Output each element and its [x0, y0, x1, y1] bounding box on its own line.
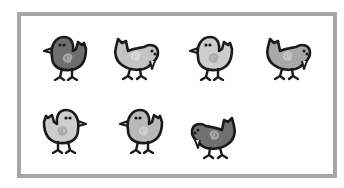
chick-pecking-icon — [108, 27, 162, 81]
chick-pecking-icon — [260, 27, 314, 81]
chick-pecking-icon — [188, 106, 242, 160]
chick-standing-icon — [184, 27, 238, 81]
chick-standing-icon — [38, 100, 92, 154]
chick-standing-icon — [38, 27, 92, 81]
chick-standing-icon — [114, 100, 168, 154]
